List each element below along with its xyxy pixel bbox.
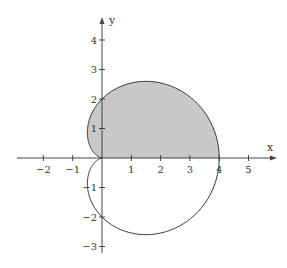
y-tick-label: 4 — [91, 35, 97, 46]
y-axis-arrow-icon — [100, 17, 105, 24]
y-tick-label: 3 — [91, 64, 97, 75]
chart-plot-area: −2−1123454321−1−2−3xy — [0, 0, 287, 268]
x-axis-label: x — [267, 141, 274, 154]
x-tick-label: 2 — [157, 164, 163, 175]
x-tick-label: 5 — [245, 164, 251, 175]
y-axis-label: y — [108, 14, 116, 27]
y-tick-label: −1 — [82, 182, 97, 193]
y-tick-label: −3 — [82, 241, 97, 252]
x-tick-label: 1 — [128, 164, 134, 175]
x-axis-arrow-icon — [270, 156, 277, 161]
shaded-upper-half — [87, 81, 219, 158]
x-tick-label: −2 — [36, 164, 51, 175]
x-tick-label: −1 — [65, 164, 80, 175]
x-tick-label: 3 — [187, 164, 193, 175]
shaded-region — [87, 81, 219, 158]
x-tick-label: 4 — [216, 164, 222, 175]
y-tick-label: −2 — [82, 212, 97, 223]
y-tick-label: 2 — [91, 94, 97, 105]
y-tick-label: 1 — [91, 123, 97, 134]
